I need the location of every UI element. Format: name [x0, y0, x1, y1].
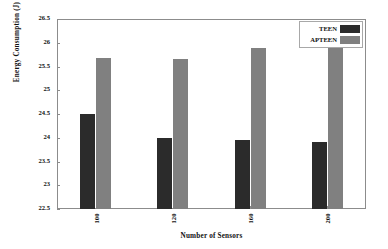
- y-axis-tick-mark: [57, 162, 60, 163]
- bar-teen-120: [157, 138, 172, 209]
- y-axis-title: Energy Consumption (J): [13, 0, 21, 107]
- y-axis-tick-label: 22.5: [38, 204, 50, 211]
- bar-apteen-200: [328, 46, 343, 209]
- y-axis-tick-label: 26: [43, 38, 50, 45]
- legend-label: APTEEN: [310, 36, 337, 43]
- bar-teen-200: [312, 142, 327, 209]
- chart-page: Energy Consumption (J) 26.52625.52524.52…: [0, 0, 388, 249]
- legend-swatch-apteen: [340, 36, 360, 44]
- y-axis-tick-mark: [57, 67, 60, 68]
- y-axis-tick-label: 25: [43, 85, 50, 92]
- y-axis-tick-label: 25.5: [38, 62, 50, 69]
- y-axis-tick-label: 23: [43, 180, 50, 187]
- y-axis-tick-mark: [57, 43, 60, 44]
- y-axis-tick-mark: [57, 114, 60, 115]
- bar-apteen-120: [173, 59, 188, 209]
- legend-swatch-teen: [340, 25, 360, 33]
- x-axis-title: Number of Sensors: [57, 232, 366, 240]
- y-axis-tick-mark: [57, 19, 60, 20]
- y-axis-tick-label: 24: [43, 133, 50, 140]
- bar-apteen-160: [251, 48, 266, 209]
- y-axis-tick-label: 26.5: [38, 14, 50, 21]
- bar-teen-100: [80, 114, 95, 209]
- bar-apteen-100: [96, 58, 111, 209]
- legend-label: TEEN: [319, 25, 337, 32]
- y-axis-tick-label: 24.5: [38, 109, 50, 116]
- y-axis-tick-mark: [57, 209, 60, 210]
- y-axis-tick-mark: [57, 138, 60, 139]
- legend-item-apteen: APTEEN: [302, 34, 360, 45]
- bar-teen-160: [235, 140, 250, 209]
- legend-item-teen: TEEN: [302, 23, 360, 34]
- y-axis-tick-mark: [57, 185, 60, 186]
- y-axis-tick-label: 23.5: [38, 157, 50, 164]
- chart-legend: TEENAPTEEN: [299, 21, 363, 48]
- y-axis-tick-mark: [57, 90, 60, 91]
